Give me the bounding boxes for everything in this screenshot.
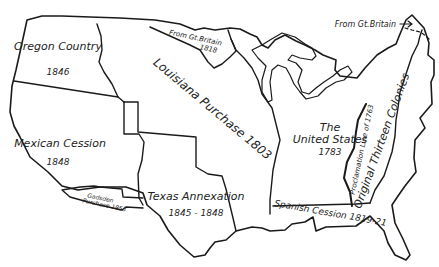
label-gbmaine: From Gt.Britain [335,20,396,29]
label-texas: Texas Annexation [147,190,244,203]
territorial-acquisitions-map: Oregon Country 1846 Mexican Cession 1848… [0,0,439,267]
oregon-border [14,81,118,97]
label-mexican: Mexican Cession [14,137,106,150]
label-us: United States [293,133,368,146]
label-gb1818: From Gt.Britain [168,29,222,48]
label-mexican-year: 1848 [47,157,70,167]
label-texas-year: 1845 - 1848 [169,208,224,218]
label-oregon: Oregon Country [14,40,102,53]
label-oregon-year: 1846 [47,67,70,77]
label-louisiana: Louisiana Purchase 1803 [151,55,275,162]
continental-divide-border [97,24,124,102]
label-us-year: 1783 [319,147,342,157]
